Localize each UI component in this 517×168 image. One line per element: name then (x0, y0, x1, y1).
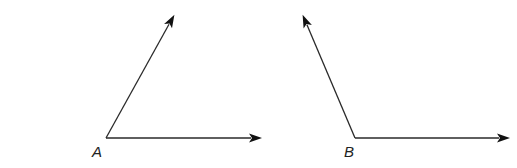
angle-a-label: A (91, 143, 102, 160)
angle-b: B (303, 15, 510, 160)
angle-b-upper-ray (307, 25, 355, 138)
angle-b-label: B (344, 143, 354, 160)
angle-a-upper-arrowhead-icon (164, 15, 174, 29)
angle-diagram: A B (0, 0, 517, 168)
angle-a: A (91, 15, 262, 160)
angle-a-upper-ray (106, 24, 169, 138)
